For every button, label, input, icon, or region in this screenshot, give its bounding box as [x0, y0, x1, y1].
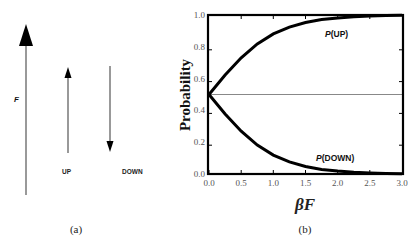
p-up-label: P(UP)	[325, 29, 348, 39]
panel-a: F UP DOWN (a)	[14, 24, 143, 236]
up-label: UP	[62, 168, 72, 175]
y-tick-3: 0.6	[194, 74, 206, 84]
down-arrow-icon	[107, 66, 114, 152]
y-tick-4: 0.8	[194, 42, 206, 52]
down-label: DOWN	[122, 168, 143, 175]
x-tick-4: 2.0	[332, 178, 344, 188]
y-tick-5: 1.0	[194, 10, 206, 20]
force-arrow-icon	[19, 24, 33, 195]
p-up-curve	[209, 15, 402, 94]
caption-a: (a)	[70, 223, 83, 236]
x-tick-3: 1.5	[300, 178, 312, 188]
y-axis-label: Probability	[177, 58, 193, 131]
caption-b: (b)	[299, 223, 312, 236]
x-tick-5: 2.5	[364, 178, 376, 188]
p-down-label: P(DOWN)	[316, 153, 354, 163]
force-label: F	[14, 95, 20, 104]
p-down-curve	[209, 95, 402, 174]
figure: F UP DOWN (a) Probability 0.0 0.2 0.4 0.…	[0, 0, 417, 248]
x-tick-1: 0.5	[236, 178, 248, 188]
y-tick-2: 0.4	[194, 105, 206, 115]
panel-b: Probability 0.0 0.2 0.4 0.6 0.8 1.0 0.0 …	[177, 10, 408, 236]
x-tick-0: 0.0	[203, 178, 215, 188]
x-tick-6: 3.0	[396, 178, 408, 188]
up-arrow-icon	[65, 67, 72, 153]
x-tick-labels: 0.0 0.5 1.0 1.5 2.0 2.5 3.0	[203, 178, 408, 188]
y-tick-1: 0.2	[194, 137, 205, 147]
x-tick-2: 1.0	[268, 178, 280, 188]
x-axis-label: βF	[294, 195, 316, 214]
y-tick-labels: 0.0 0.2 0.4 0.6 0.8 1.0	[194, 10, 206, 179]
